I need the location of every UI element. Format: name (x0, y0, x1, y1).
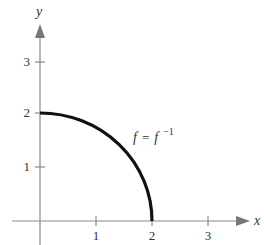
x-tick-label-3: 3 (205, 228, 212, 243)
x-tick-label-1: 1 (93, 228, 100, 243)
y-axis-arrow-icon (35, 24, 45, 38)
graph: 1 2 3 1 2 3 x y f = f −1 (0, 0, 264, 245)
y-axis-label: y (34, 4, 43, 19)
x-axis-arrow-icon (236, 216, 250, 226)
x-tick-label-2: 2 (149, 228, 156, 243)
y-tick-label-1: 1 (24, 159, 31, 174)
curve-annotation: f = f −1 (133, 126, 174, 145)
y-tick-label-3: 3 (24, 54, 31, 69)
y-tick-label-2: 2 (24, 105, 31, 120)
x-axis-label: x (253, 213, 261, 228)
